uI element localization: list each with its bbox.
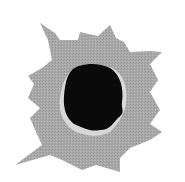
bullet-hole-graphic: [0, 0, 185, 182]
hole-icon: [64, 64, 123, 130]
